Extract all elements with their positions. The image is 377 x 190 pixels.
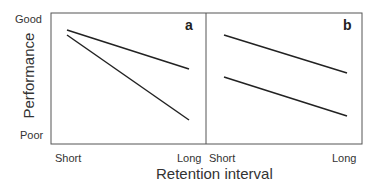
panel-b-lower-line	[224, 77, 347, 116]
panel-b-x-tick-long: Long	[332, 152, 356, 164]
x-axis-label: Retention interval	[156, 165, 273, 182]
y-tick-poor: Poor	[20, 129, 43, 141]
panel-a-letter: a	[185, 17, 193, 33]
panel-b-x-tick-short: Short	[209, 152, 235, 164]
y-axis-label: Performance	[20, 39, 37, 119]
panel-a-x-tick-short: Short	[55, 152, 81, 164]
panel-a-upper-line	[67, 30, 189, 69]
panel-a-lower-line	[67, 35, 189, 120]
panel-b-upper-line	[224, 35, 347, 73]
y-tick-good: Good	[15, 13, 42, 25]
panel-b-letter: b	[343, 17, 352, 33]
panel-a-x-tick-long: Long	[177, 152, 201, 164]
